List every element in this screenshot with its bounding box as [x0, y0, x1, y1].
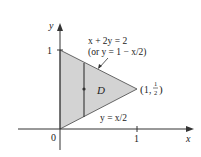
svg-text:1: 1: [154, 80, 157, 87]
x-axis-arrow-icon: [186, 126, 194, 132]
x-tick-label: 1: [134, 133, 139, 144]
origin-label: 0: [51, 132, 56, 143]
region-diagram: y 1 0 1 x D x + 2y = 2 (or y = 1 − x/2) …: [0, 0, 201, 157]
slice-dot: [82, 87, 85, 90]
upper-boundary-alt-equation: (or y = 1 − x/2): [88, 47, 146, 58]
lower-boundary-equation: y = x/2: [100, 113, 127, 123]
x-axis-label: x: [185, 133, 191, 144]
y-axis-label: y: [48, 20, 54, 31]
region-label: D: [96, 84, 105, 96]
svg-text:): ): [159, 83, 163, 96]
upper-boundary-equation: x + 2y = 2: [88, 36, 127, 46]
y-tick-label: 1: [47, 45, 52, 56]
svg-text:,: ,: [149, 85, 151, 95]
svg-text:2: 2: [154, 89, 157, 96]
vertex-label: ( 1 , 1 2 ): [140, 80, 163, 96]
y-axis-arrow-icon: [57, 23, 63, 31]
